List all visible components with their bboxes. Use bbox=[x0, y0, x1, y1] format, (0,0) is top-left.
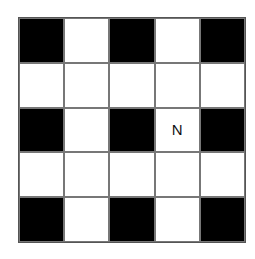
grid-cell-r1-c4 bbox=[155, 18, 200, 63]
grid-cell-r2-c2 bbox=[64, 63, 109, 108]
grid-cell-r2-c4 bbox=[155, 63, 200, 108]
grid-cell-r2-c1 bbox=[19, 63, 64, 108]
grid-cell-r4-c2 bbox=[64, 152, 109, 197]
grid-cell-r2-c5 bbox=[200, 63, 245, 108]
grid-cell-r4-c5 bbox=[200, 152, 245, 197]
grid-cell-r3-c3 bbox=[109, 108, 154, 153]
grid-cell-r4-c3 bbox=[109, 152, 154, 197]
grid-cell-r1-c5 bbox=[200, 18, 245, 63]
grid-cell-r3-c4: N bbox=[155, 108, 200, 153]
grid-cell-r5-c5 bbox=[200, 197, 245, 242]
grid-cell-r3-c5 bbox=[200, 108, 245, 153]
grid-cell-r5-c1 bbox=[19, 197, 64, 242]
grid-cell-r4-c1 bbox=[19, 152, 64, 197]
grid-cell-r5-c4 bbox=[155, 197, 200, 242]
grid-cell-r1-c1 bbox=[19, 18, 64, 63]
grid-cell-r1-c2 bbox=[64, 18, 109, 63]
grid-cell-r3-c2 bbox=[64, 108, 109, 153]
grid-cell-r5-c3 bbox=[109, 197, 154, 242]
grid-cell-r1-c3 bbox=[109, 18, 154, 63]
grid-diagram: N bbox=[18, 17, 246, 243]
grid-cell-r4-c4 bbox=[155, 152, 200, 197]
grid-cell-r2-c3 bbox=[109, 63, 154, 108]
grid-cell-r5-c2 bbox=[64, 197, 109, 242]
grid-cell-r3-c1 bbox=[19, 108, 64, 153]
